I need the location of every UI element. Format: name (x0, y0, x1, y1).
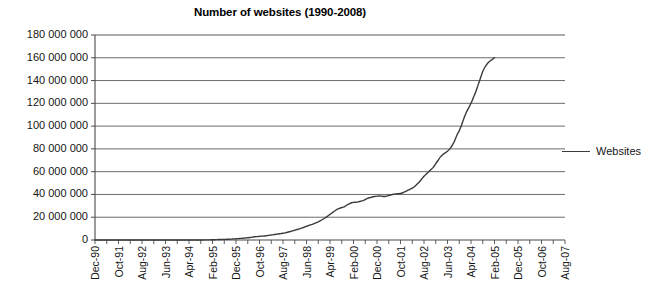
legend-label-websites: Websites (596, 145, 641, 157)
legend: Websites (562, 145, 641, 157)
gridlines (91, 35, 565, 240)
legend-line-swatch (562, 151, 590, 152)
chart-container: Number of websites (1990-2008) 020 000 0… (0, 0, 672, 304)
